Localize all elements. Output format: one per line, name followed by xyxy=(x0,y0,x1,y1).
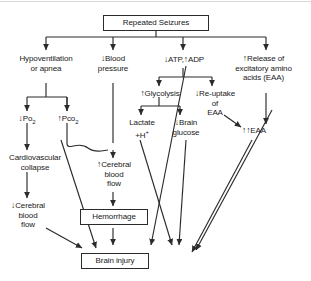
node-repeated-seizures: Repeated Seizures xyxy=(103,15,209,31)
connector-lines xyxy=(0,0,311,281)
node-eaa-double-label: EAA xyxy=(250,126,266,135)
node-reuptake-eaa-line3: EAA xyxy=(190,108,240,118)
node-atp-adp: ↓ATP,↑ADP xyxy=(153,55,215,65)
node-cerebral-blood-flow-up: ↑Cerebral blood flow xyxy=(88,160,140,189)
node-blood-pressure-line2: pressure xyxy=(88,64,138,74)
node-cardiovascular-collapse-line1: Cardiovascular xyxy=(0,153,70,163)
diagram-canvas: Repeated Seizures Hypoventilation or apn… xyxy=(0,0,311,281)
node-hemorrhage: Hemorrhage xyxy=(80,209,148,225)
node-glycolysis: ↑Glycolysis xyxy=(131,89,189,99)
node-pco2: ↑Pco2 xyxy=(46,114,90,127)
node-cerebral-blood-flow-down: ↓Cerebral blood flow xyxy=(1,201,55,230)
node-brain-injury-label: Brain injury xyxy=(96,256,135,266)
po2-subscript: 2 xyxy=(32,119,35,125)
node-brain-glucose-line2: glucose xyxy=(162,128,210,138)
node-cbf-up-line1: Cerebral xyxy=(101,160,131,169)
node-lactate-line2: +H xyxy=(135,130,145,139)
node-release-eaa: ↑Release of excitatory amino acids (EAA) xyxy=(216,54,311,83)
node-blood-pressure-line1: Blood xyxy=(105,54,125,63)
node-release-eaa-line3: acids (EAA) xyxy=(216,73,311,83)
pco2-subscript: 2 xyxy=(75,119,78,125)
node-brain-injury: Brain injury xyxy=(81,253,149,269)
node-cbf-up-line2: blood xyxy=(88,170,140,180)
node-cbf-down-line1: Cerebral xyxy=(15,201,45,210)
node-hypoventilation-line2: or apnea xyxy=(4,64,88,74)
node-lactate: Lactate +H+ xyxy=(118,118,166,140)
node-cardiovascular-collapse-line2: collapse xyxy=(0,163,70,173)
node-release-eaa-line1: Release of xyxy=(247,54,284,63)
node-release-eaa-line2: excitatory amino xyxy=(216,64,311,74)
node-cbf-down-line3: flow xyxy=(1,220,55,230)
lactate-superscript: + xyxy=(145,129,148,135)
node-eaa-double: ↑↑EAA xyxy=(230,126,278,136)
node-brain-glucose: ↓Brain glucose xyxy=(162,118,210,137)
node-po2: ↓Po2 xyxy=(7,114,47,127)
node-blood-pressure: ↓Blood pressure xyxy=(88,54,138,73)
node-brain-glucose-line1: Brain xyxy=(179,118,197,127)
node-hemorrhage-label: Hemorrhage xyxy=(92,212,135,222)
node-atp-label: ATP, xyxy=(168,55,184,64)
node-pco2-label: Pco xyxy=(62,114,76,123)
node-hypoventilation-line1: Hypoventilation xyxy=(4,54,88,64)
node-cbf-down-line2: blood xyxy=(1,211,55,221)
node-glycolysis-label: Glycolysis xyxy=(145,89,180,98)
node-po2-label: Po xyxy=(23,114,33,123)
node-cbf-up-line3: flow xyxy=(88,179,140,189)
node-reuptake-eaa-line2: of xyxy=(190,99,240,109)
node-adp-label: ADP xyxy=(188,55,204,64)
node-lactate-line1: Lactate xyxy=(118,118,166,128)
node-cardiovascular-collapse: Cardiovascular collapse xyxy=(0,153,70,172)
node-hypoventilation: Hypoventilation or apnea xyxy=(4,54,88,73)
node-reuptake-eaa-line1: Re-uptake xyxy=(199,89,235,98)
node-repeated-seizures-label: Repeated Seizures xyxy=(123,18,189,28)
node-reuptake-eaa: ↓Re-uptake of EAA xyxy=(190,89,240,118)
